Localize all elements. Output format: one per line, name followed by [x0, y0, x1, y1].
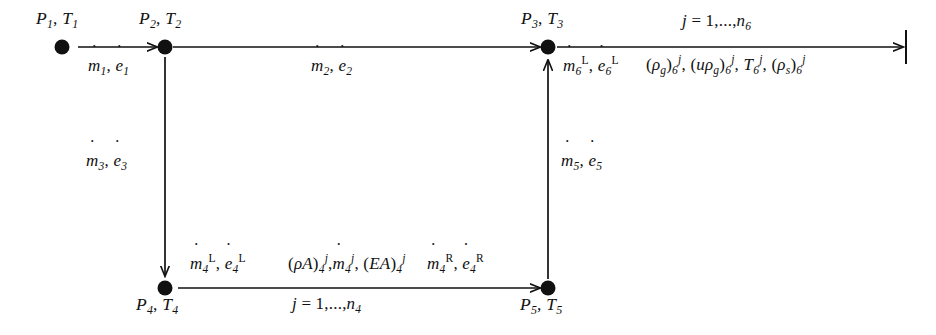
node-n4-comma: ,	[153, 294, 158, 314]
flow5-mdot: m	[561, 152, 573, 169]
flow1-e-sub: 1	[123, 65, 129, 78]
edge-label-flow4L: m4L, e4L	[190, 255, 246, 272]
node-n1-P: P	[36, 8, 47, 28]
node-n5-T: T	[546, 294, 556, 314]
edge-label-flow6L: m6L, e6L	[563, 57, 619, 74]
node-n2-T: T	[165, 8, 175, 28]
flow5-edot: e	[588, 152, 596, 169]
node-n3-comma: ,	[538, 8, 543, 28]
index-range-label-4: j = 1,...,n4	[292, 295, 361, 312]
flow2-mdot: m	[311, 57, 323, 74]
network-lines-layer	[0, 0, 936, 335]
flow3-e-sub: 3	[121, 160, 127, 173]
node-n1-T-sub: 1	[72, 17, 78, 31]
node-label-n4: P4, T4	[136, 296, 178, 314]
node-label-n3: P3, T3	[521, 10, 563, 28]
node-label-n1: P1, T1	[36, 10, 78, 28]
flow3-edot: e	[113, 152, 121, 169]
flow-network-diagram: P1, T1 P2, T2 P3, T3 P4, T4 P5, T5 m1, e…	[0, 0, 936, 335]
node-n3-T: T	[547, 8, 557, 28]
index-range-label-6: j = 1,...,n6	[682, 12, 751, 29]
node-n2-comma: ,	[156, 8, 161, 28]
field-label-field6: (ρg)6j, (uρg)6j, T6j, (ρs)6j	[646, 56, 806, 73]
node-n4-T-sub: 4	[172, 303, 178, 317]
node-n1-dot[interactable]	[55, 40, 70, 55]
node-n4-T: T	[162, 294, 172, 314]
flow5-e-sub: 5	[596, 160, 602, 173]
edge-label-flow2: m2, e2	[311, 57, 352, 74]
node-n3-T-sub: 3	[557, 17, 563, 31]
node-label-n2: P2, T2	[139, 10, 181, 28]
edge-label-flow1: m1, e1	[88, 57, 129, 74]
node-n3-dot[interactable]	[541, 40, 556, 55]
flow3-mdot: m	[86, 152, 98, 169]
edge-label-flow5: m5, e5	[561, 152, 602, 169]
field-label-field4: (ρA)4j,m4j, (EA)4j	[288, 255, 406, 272]
flow2-e-sub: 2	[346, 65, 352, 78]
node-n1-T: T	[62, 8, 72, 28]
node-n5-T-sub: 5	[556, 303, 562, 317]
node-n5-P: P	[520, 294, 531, 314]
flow1-edot: e	[115, 57, 123, 74]
edge-label-flow4R: m4R, e4R	[427, 255, 484, 272]
node-n2-dot[interactable]	[158, 40, 173, 55]
flow1-mdot: m	[88, 57, 100, 74]
node-n5-comma: ,	[537, 294, 542, 314]
node-label-n5: P5, T5	[520, 296, 562, 314]
node-n3-P: P	[521, 8, 532, 28]
node-n1-comma: ,	[53, 8, 58, 28]
flow2-edot: e	[338, 57, 346, 74]
node-n4-P: P	[136, 294, 147, 314]
edge-label-flow3: m3, e3	[86, 152, 127, 169]
node-n2-T-sub: 2	[175, 17, 181, 31]
node-n2-P: P	[139, 8, 150, 28]
